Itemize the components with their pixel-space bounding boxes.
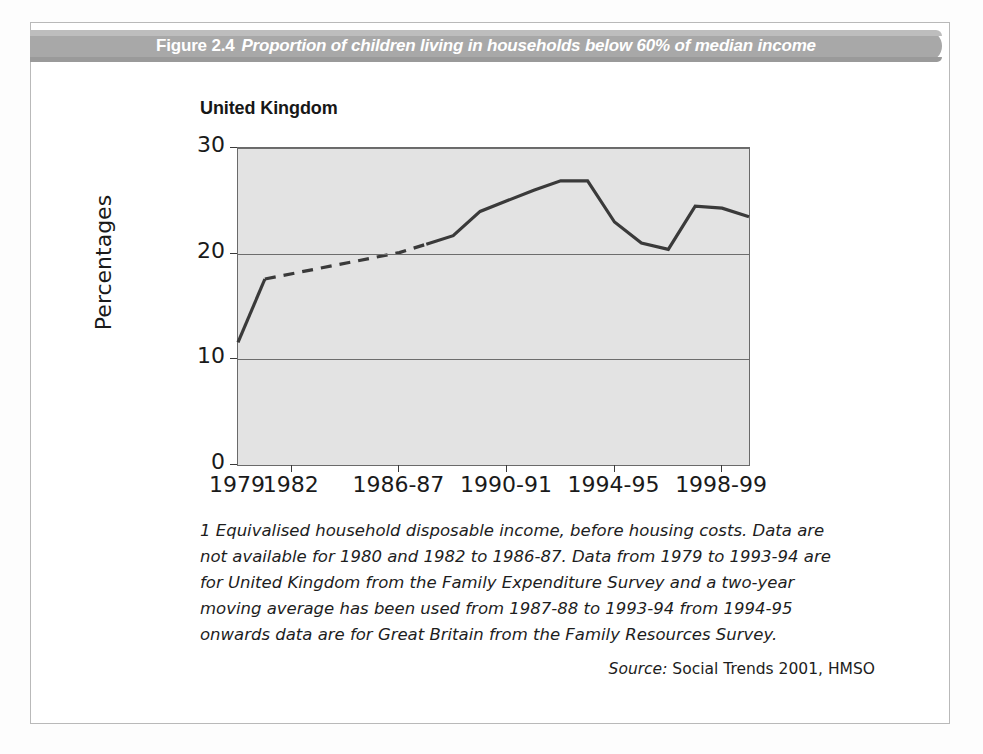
- chart-subtitle: United Kingdom: [200, 98, 338, 119]
- figure-number: Figure 2.4: [156, 36, 234, 55]
- source-value: Social Trends 2001, HMSO: [672, 660, 875, 678]
- footnote-text: 1 Equivalised household disposable incom…: [200, 518, 840, 648]
- page-canvas: Figure 2.4Proportion of children living …: [0, 0, 983, 754]
- figure-title: Figure 2.4Proportion of children living …: [30, 35, 942, 57]
- figure-caption: Proportion of children living in househo…: [241, 36, 815, 55]
- source-line: Source: Social Trends 2001, HMSO: [400, 660, 875, 678]
- source-label: Source:: [609, 660, 668, 678]
- banner-shadow: [30, 57, 942, 62]
- figure-title-banner: Figure 2.4Proportion of children living …: [30, 30, 942, 62]
